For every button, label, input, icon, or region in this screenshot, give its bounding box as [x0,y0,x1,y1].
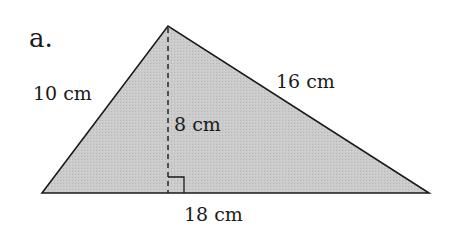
height-label: 8 cm [174,113,221,135]
triangle-diagram: a. 10 cm 16 cm 8 cm 18 cm [0,0,452,239]
left-side-label: 10 cm [33,82,92,104]
base-label: 18 cm [184,203,243,225]
part-label: a. [29,23,53,53]
triangle-shape [42,26,429,193]
right-side-label: 16 cm [276,70,335,92]
